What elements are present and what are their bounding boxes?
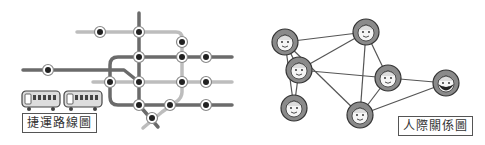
person-avatar-icon (281, 95, 307, 121)
person-avatar-icon (353, 19, 379, 45)
person-avatar-icon (375, 65, 401, 91)
person-avatar-icon (272, 29, 298, 55)
person-avatar-icon (347, 102, 373, 128)
relationship-map-label: 人際關係圖 (398, 116, 473, 136)
person-avatar-icon (286, 57, 312, 83)
person-avatar-icon (433, 70, 459, 96)
relationship-edge (360, 83, 446, 115)
